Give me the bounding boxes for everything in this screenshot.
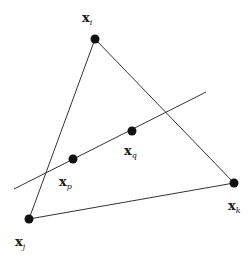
point-xi bbox=[91, 35, 100, 44]
point-xp bbox=[69, 155, 78, 164]
point-xk bbox=[230, 179, 239, 188]
label-xp: xp bbox=[59, 174, 72, 191]
point-xq bbox=[128, 127, 137, 136]
label-xi: xi bbox=[82, 10, 93, 27]
edge-xi-xk bbox=[95, 39, 234, 183]
edge-xi-xj bbox=[29, 39, 95, 219]
label-xj: xj bbox=[15, 234, 26, 251]
triangle-diagram: xixjxkxpxq bbox=[0, 0, 251, 262]
line-through-xp-xq bbox=[14, 92, 206, 189]
label-xq: xq bbox=[124, 143, 137, 160]
point-xj bbox=[25, 215, 34, 224]
label-xk: xk bbox=[228, 198, 241, 215]
